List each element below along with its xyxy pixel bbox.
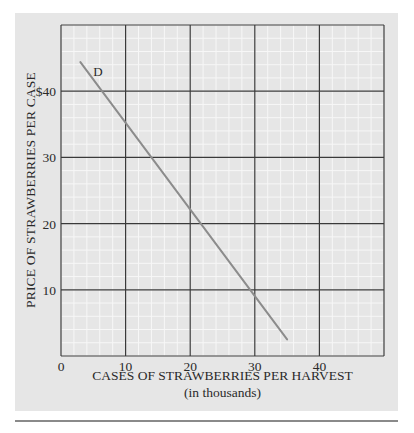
y-axis-label: PRICE OF STRAWBERRIES PER CASE <box>23 72 39 308</box>
y-tick-label: 10 <box>43 283 57 298</box>
x-axis-sublabel: (in thousands) <box>61 385 384 401</box>
x-axis-label: CASES OF STRAWBERRIES PER HARVEST <box>61 368 384 384</box>
y-tick-label: 30 <box>43 150 57 165</box>
plot-area <box>61 25 384 356</box>
divider <box>15 420 398 422</box>
y-tick-label: 20 <box>43 217 57 232</box>
curve-label-d: D <box>93 64 102 79</box>
